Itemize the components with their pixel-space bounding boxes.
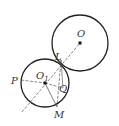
line-of-centers — [22, 43, 80, 112]
segment-O1-M — [45, 83, 57, 107]
label-P: P — [10, 75, 18, 86]
label-Q: Q — [59, 83, 67, 94]
label-L: L — [54, 51, 62, 62]
label-O: O — [77, 28, 85, 39]
geometry-diagram: O O1 L P Q M — [0, 0, 119, 126]
label-O1-sub: 1 — [44, 75, 48, 83]
label-M: M — [53, 109, 65, 120]
label-O1: O1 — [36, 70, 49, 83]
center-point-O — [79, 42, 82, 45]
label-O1-main: O — [36, 70, 44, 81]
